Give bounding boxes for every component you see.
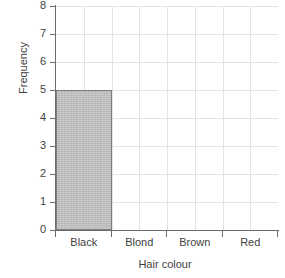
y-axis-tick-label: 4 (24, 112, 46, 123)
y-axis-tick (50, 146, 56, 147)
y-axis-tick (50, 62, 56, 63)
gridline-vertical (139, 6, 140, 230)
x-axis-tick-label: Brown (167, 236, 223, 248)
y-axis-tick-label: 2 (24, 168, 46, 179)
gridline-vertical (250, 6, 251, 230)
gridline-vertical (195, 6, 196, 230)
plot-area (56, 6, 278, 230)
y-axis-tick-label: 6 (24, 56, 46, 67)
x-axis-tick-label: Black (56, 236, 112, 248)
y-axis-tick (50, 174, 56, 175)
x-axis-tick-label: Blond (112, 236, 168, 248)
x-axis-title: Hair colour (52, 258, 278, 270)
gridline-vertical (112, 6, 113, 230)
y-axis-tick (50, 6, 56, 7)
y-axis-tick (50, 34, 56, 35)
bar-chart: Frequency 012345678 BlackBlondBrownRed H… (0, 0, 285, 278)
y-axis-tick-label: 5 (24, 84, 46, 95)
y-axis-tick (50, 90, 56, 91)
y-axis-tick-label: 7 (24, 28, 46, 39)
y-axis-tick (50, 118, 56, 119)
y-axis-tick-label: 8 (24, 0, 46, 11)
x-axis-line (55, 230, 279, 231)
y-axis-tick-label: 1 (24, 196, 46, 207)
y-axis-tick-label: 0 (24, 224, 46, 235)
y-axis-tick-label: 3 (24, 140, 46, 151)
gridline-vertical (167, 6, 168, 230)
bar (56, 90, 112, 230)
gridline-vertical (223, 6, 224, 230)
x-axis-tick-label: Red (223, 236, 279, 248)
y-axis-tick (50, 202, 56, 203)
